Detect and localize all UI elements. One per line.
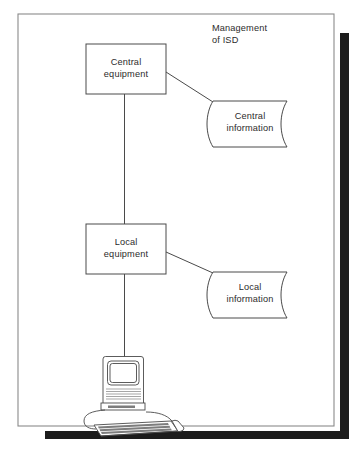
floppy-slot-icon: [108, 406, 135, 409]
monitor-screen-icon: [108, 361, 140, 385]
central-equipment-label-line2: equipment: [104, 69, 149, 79]
node-local-information[interactable]: Local information: [207, 272, 287, 318]
shadow-bar-right: [340, 33, 349, 438]
local-equipment-label-line2: equipment: [104, 249, 149, 259]
figure-root: Central equipment Central information Lo…: [0, 0, 355, 449]
diagram-title-line2: of ISD: [212, 35, 239, 45]
local-information-label-line2: information: [226, 294, 273, 304]
central-information-label-line2: information: [226, 123, 273, 133]
node-central-information[interactable]: Central information: [207, 101, 287, 147]
central-equipment-label-line1: Central: [111, 57, 142, 67]
local-equipment-label-line1: Local: [115, 237, 138, 247]
central-information-label-line1: Central: [235, 111, 266, 121]
node-local-equipment[interactable]: Local equipment: [86, 224, 166, 274]
node-central-equipment[interactable]: Central equipment: [86, 44, 166, 94]
local-information-label-line1: Local: [239, 282, 262, 292]
shadow-bar-bottom: [45, 431, 349, 439]
diagram-frame: [18, 14, 334, 426]
isd-diagram: Central equipment Central information Lo…: [0, 0, 355, 449]
diagram-title-line1: Management: [212, 23, 267, 33]
